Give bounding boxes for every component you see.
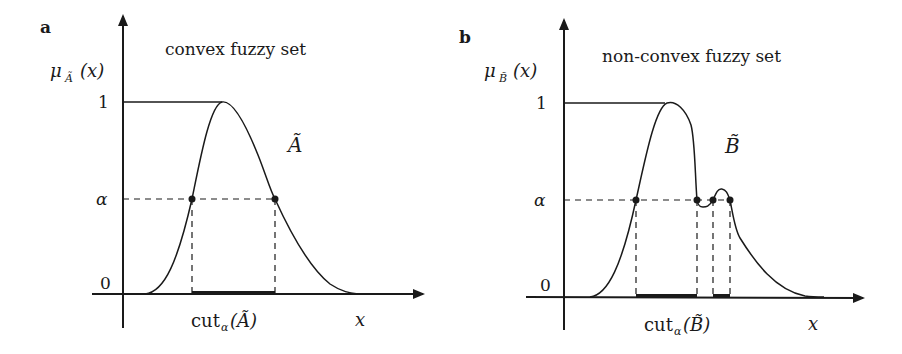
alpha-point-b-2: [694, 197, 701, 204]
cut-label-a: cut α (Ã): [191, 310, 257, 334]
svg-text:μ: μ: [484, 60, 496, 81]
svg-text:(x): (x): [513, 60, 537, 81]
tick-alpha-a: α: [96, 189, 108, 209]
set-label-b: B̃: [724, 134, 740, 158]
alpha-point-b-4: [727, 197, 734, 204]
panel-label-b: b: [459, 27, 471, 47]
svg-text:(x): (x): [80, 60, 104, 81]
cut-label-b: cut α (B̃): [644, 314, 710, 338]
panel-b: b non-convex fuzzy set μ B̃ (x) 1 α 0: [459, 20, 863, 338]
y-axis-label-a: μ Ã (x): [50, 60, 104, 85]
svg-text:cut: cut: [191, 310, 221, 331]
tick-zero-a: 0: [100, 273, 111, 293]
x-axis-label-b: x: [808, 313, 818, 334]
figure-canvas: a convex fuzzy set μ Ã (x) 1 α 0 Ã: [0, 0, 902, 354]
tick-one-b: 1: [536, 93, 547, 113]
svg-text:B̃: B̃: [498, 72, 507, 85]
svg-text:(Ã): (Ã): [230, 310, 257, 331]
alpha-point-a-1: [189, 196, 196, 203]
svg-text:Ã: Ã: [64, 71, 73, 85]
alpha-point-a-2: [272, 196, 279, 203]
svg-text:μ: μ: [50, 60, 62, 81]
membership-curve-a: [145, 102, 358, 294]
svg-text:(B̃): (B̃): [683, 314, 710, 335]
set-label-a: Ã: [286, 133, 302, 157]
tick-alpha-b: α: [534, 190, 546, 210]
panel-label-a: a: [40, 17, 51, 37]
x-axis-label-a: x: [355, 309, 365, 330]
alpha-point-b-3: [710, 197, 717, 204]
panel-a: a convex fuzzy set μ Ã (x) 1 α 0 Ã: [40, 16, 423, 334]
svg-text:α: α: [221, 321, 229, 334]
svg-text:cut: cut: [644, 314, 674, 335]
panel-title-a: convex fuzzy set: [165, 39, 306, 59]
panel-title-b: non-convex fuzzy set: [602, 46, 781, 66]
y-axis-label-b: μ B̃ (x): [484, 60, 537, 85]
svg-text:α: α: [674, 325, 682, 338]
alpha-point-b-1: [633, 197, 640, 204]
tick-zero-b: 0: [540, 275, 551, 295]
tick-one-a: 1: [98, 92, 109, 112]
